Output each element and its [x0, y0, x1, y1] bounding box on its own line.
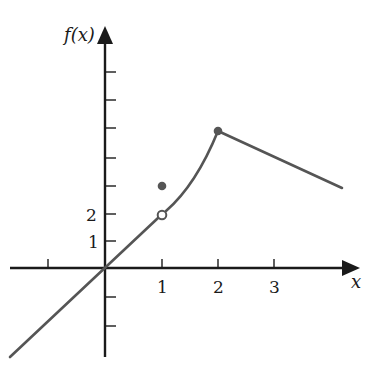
curved-segment: [166, 131, 218, 211]
function-graph: f(x) x 1 2 3 2 1: [0, 0, 366, 378]
y-tick-label-1: 1: [88, 232, 99, 252]
linear-segment: [10, 218, 158, 357]
y-ticks: [105, 72, 116, 326]
x-tick-label-3: 3: [269, 277, 280, 297]
open-circle-marker: [158, 211, 167, 220]
peak-dot-marker: [214, 127, 223, 136]
y-tick-label-2: 2: [86, 205, 97, 225]
y-axis-arrow-icon: [97, 26, 113, 44]
x-ticks: [48, 259, 274, 268]
filled-dot-marker: [158, 182, 167, 191]
x-axis-label: x: [351, 271, 361, 292]
x-tick-label-1: 1: [157, 277, 168, 297]
x-tick-label-2: 2: [213, 277, 224, 297]
y-axis-label: f(x): [62, 24, 95, 45]
decreasing-segment: [218, 131, 342, 188]
